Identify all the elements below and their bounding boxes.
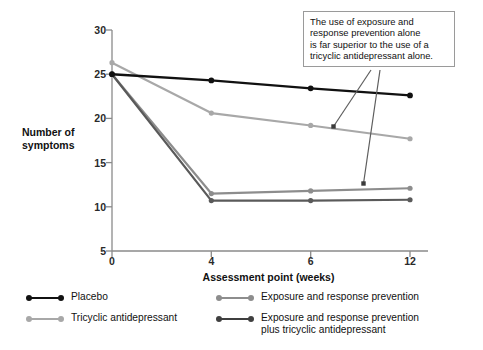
data-point xyxy=(308,85,314,91)
data-point xyxy=(109,71,115,77)
legend-column-left: Placebo Tricyclic antidepressant xyxy=(26,291,194,333)
x-tick-label: 6 xyxy=(308,256,314,267)
chart-legend: Placebo Tricyclic antidepressant Exposur xyxy=(26,291,466,343)
annotation-line-4: tricyclic antidepressant alone. xyxy=(310,50,449,61)
legend-item-tricyclic-antidepressant[interactable]: Tricyclic antidepressant xyxy=(26,312,194,325)
legend-swatch-exposure-response-prevention xyxy=(216,292,254,304)
x-axis-ticks xyxy=(112,251,410,257)
annotation-callout: The use of exposure and response prevent… xyxy=(303,11,455,67)
legend-label-exposure-response-prevention: Exposure and response prevention xyxy=(261,291,419,303)
data-point xyxy=(308,188,313,193)
annotation-line-3: is far superior to the use of a xyxy=(310,39,449,50)
chart-figure: 30 25 20 15 10 5 0 4 6 12 Number of symp… xyxy=(0,0,483,350)
data-point xyxy=(407,197,412,202)
data-point xyxy=(308,198,313,203)
legend-swatch-erp-plus-tricyclic xyxy=(216,313,254,325)
x-tick-label: 0 xyxy=(109,256,115,267)
data-point xyxy=(209,110,214,115)
y-axis-title: Number of symptoms xyxy=(22,126,106,151)
data-point xyxy=(308,123,313,128)
legend-item-placebo[interactable]: Placebo xyxy=(26,291,194,304)
y-tick-label: 5 xyxy=(80,246,106,257)
y-tick-label: 10 xyxy=(80,202,106,213)
annotation-line-1: The use of exposure and xyxy=(310,16,449,27)
y-tick-label: 20 xyxy=(80,113,106,124)
annotation-leader-lines xyxy=(331,70,380,186)
legend-swatch-tricyclic-antidepressant xyxy=(26,313,64,325)
data-point xyxy=(209,198,214,203)
y-tick-label: 30 xyxy=(80,25,106,36)
data-point xyxy=(407,136,412,141)
x-tick-label: 4 xyxy=(208,256,214,267)
legend-column-right: Exposure and response prevention Exposur… xyxy=(216,291,476,345)
data-point xyxy=(208,77,214,83)
data-point xyxy=(407,93,413,99)
legend-label-erp-plus-tricyclic: Exposure and response prevention plus tr… xyxy=(261,312,419,337)
y-axis-title-line-2: symptoms xyxy=(22,139,106,152)
legend-item-erp-plus-tricyclic[interactable]: Exposure and response prevention plus tr… xyxy=(216,312,476,337)
data-point xyxy=(407,186,412,191)
x-axis-title: Assessment point (weeks) xyxy=(112,271,425,283)
y-tick-label: 25 xyxy=(80,69,106,80)
y-tick-label: 15 xyxy=(80,158,106,169)
data-point xyxy=(209,191,214,196)
annotation-line-2: response prevention alone xyxy=(310,27,449,38)
annotation-leader-endpoint xyxy=(331,124,335,128)
annotation-leader-line-erp xyxy=(364,70,381,184)
annotation-leader-endpoint xyxy=(361,181,365,185)
x-tick-label: 12 xyxy=(404,256,416,267)
annotation-leader-line-tricyclic xyxy=(334,70,372,127)
y-axis-title-line-1: Number of xyxy=(22,126,106,139)
legend-item-exposure-response-prevention[interactable]: Exposure and response prevention xyxy=(216,291,476,304)
legend-label-tricyclic-antidepressant: Tricyclic antidepressant xyxy=(71,312,177,324)
legend-swatch-placebo xyxy=(26,292,64,304)
data-point xyxy=(109,60,114,65)
legend-label-placebo: Placebo xyxy=(71,291,108,303)
